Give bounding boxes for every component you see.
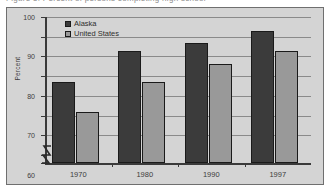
y-axis-title: Percent — [14, 69, 21, 81]
legend-swatch-icon-united-states — [65, 31, 71, 37]
cut-off-caption-text: Figure 5. Percent of persons completing … — [6, 0, 206, 3]
bar-united-states-1970 — [76, 112, 99, 163]
legend-label-alaska: Alaska — [74, 19, 97, 28]
bar-alaska-1990 — [185, 43, 208, 163]
x-axis-tick — [178, 163, 179, 167]
chart-screenshot: Figure 5. Percent of persons completing … — [0, 0, 332, 193]
bar-alaska-1980 — [118, 51, 141, 163]
bar-alaska-1970 — [52, 82, 75, 163]
y-axis-tick-label: 60 — [27, 171, 35, 178]
y-axis-tick-label: 70 — [27, 132, 35, 139]
bar-united-states-1997 — [275, 51, 298, 163]
x-axis-tick — [112, 163, 113, 167]
cut-off-caption-strip: Figure 5. Percent of persons completing … — [0, 0, 332, 6]
y-axis-tick-label: 90 — [27, 53, 35, 60]
y-axis-tick-label: 100 — [23, 14, 35, 21]
x-axis-tick-label: 1997 — [269, 170, 286, 179]
bar-united-states-1990 — [209, 64, 232, 163]
chart-frame: Percent 030405060708090100 1970198019901… — [6, 7, 324, 185]
legend: Alaska United States — [63, 18, 121, 40]
x-axis-tick — [245, 163, 246, 167]
x-axis-tick-label: 1990 — [203, 170, 220, 179]
legend-item-united-states: United States — [65, 29, 119, 38]
legend-item-alaska: Alaska — [65, 19, 119, 28]
bar-united-states-1980 — [142, 82, 165, 163]
x-axis-tick-label: 1970 — [70, 170, 87, 179]
legend-label-united-states: United States — [74, 29, 119, 38]
y-axis-line — [45, 17, 47, 163]
x-axis-tick-label: 1980 — [136, 170, 153, 179]
y-axis-tick-label: 80 — [27, 92, 35, 99]
legend-swatch-icon-alaska — [65, 21, 71, 27]
bar-alaska-1997 — [251, 31, 274, 163]
